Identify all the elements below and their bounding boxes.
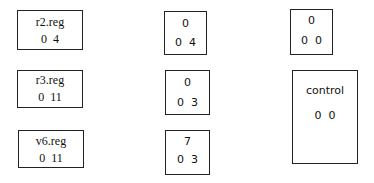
register-name: r2.reg [18, 16, 82, 28]
control-values: 0 0 [293, 110, 357, 121]
value-top: 0 [291, 15, 332, 26]
value-pair: 0 3 [166, 154, 209, 165]
value-top: 0 [166, 77, 209, 88]
value-box-2: 0 0 3 [165, 70, 210, 115]
value-top: 7 [166, 136, 209, 147]
value-pair: 0 0 [291, 35, 332, 46]
register-values: 0 11 [18, 91, 82, 103]
register-name: v6.reg [19, 135, 83, 147]
register-box-r3: r3.reg 0 11 [17, 70, 83, 108]
value-box-4: 0 0 0 [290, 9, 333, 55]
control-label: control [293, 85, 357, 96]
value-box-1: 0 0 4 [164, 11, 207, 55]
register-values: 0 4 [18, 33, 82, 45]
register-name: r3.reg [18, 74, 82, 86]
register-box-r2: r2.reg 0 4 [17, 10, 83, 50]
value-pair: 0 4 [165, 37, 206, 48]
value-box-3: 7 0 3 [165, 130, 210, 175]
control-box: control 0 0 [292, 70, 358, 164]
value-pair: 0 3 [166, 97, 209, 108]
register-box-v6: v6.reg 0 11 [18, 130, 84, 168]
value-top: 0 [165, 18, 206, 29]
register-values: 0 11 [19, 152, 83, 164]
